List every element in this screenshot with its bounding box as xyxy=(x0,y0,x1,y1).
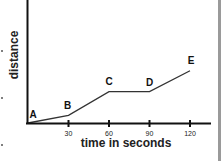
point-label-b: B xyxy=(64,100,71,111)
x-axis-label: time in seconds xyxy=(81,136,172,150)
point-labels: ABCDE xyxy=(29,55,194,120)
y-axis-label: distance xyxy=(7,30,21,79)
x-tick-label: 120 xyxy=(184,130,196,137)
point-label-d: D xyxy=(146,77,153,88)
point-label-a: A xyxy=(29,109,36,120)
margin-dot xyxy=(1,97,3,99)
margin-dot xyxy=(1,144,3,146)
x-tick-label: 30 xyxy=(65,130,73,137)
point-label-e: E xyxy=(188,55,195,66)
right-border-bar xyxy=(218,0,221,161)
point-label-c: C xyxy=(105,76,112,87)
margin-dot xyxy=(1,50,3,52)
distance-time-chart: 306090120 ABCDE time in seconds distance xyxy=(0,0,223,161)
